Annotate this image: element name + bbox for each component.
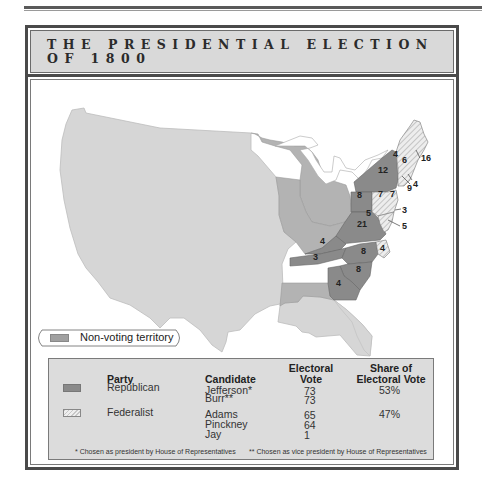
candidate-jay: Jay [205,429,221,440]
vote-virginia: 21 [357,219,367,229]
header-electoral-vote-line2: Vote [281,374,341,385]
party-republican: Republican [107,382,160,393]
vote-connecticut: 9 [407,183,412,193]
vote-pennsylvania-fed: 7 [378,189,383,199]
party-federalist: Federalist [107,407,153,418]
vote-pennsylvania-rep: 8 [357,190,362,200]
vote-kentucky: 4 [320,236,325,246]
vote-rhode-island: 4 [413,179,418,189]
share-federalist: 47% [379,409,400,420]
non-voting-label: Non-voting territory [80,331,174,343]
vote-north-carolina-rep: 8 [361,246,366,256]
vote-vermont: 4 [393,149,398,159]
share-republican: 53% [379,385,400,396]
vote-new-hampshire: 6 [402,155,407,165]
vote-north-carolina-fed: 4 [380,243,385,253]
vote-south-carolina: 8 [356,264,361,274]
results-table: Party Candidate Electoral Vote Share of … [48,358,434,460]
vote-new-york: 12 [378,165,388,175]
state-north-carolina [342,242,378,264]
vote-new-jersey: 7 [390,189,395,199]
votes-burr: 73 [304,395,316,406]
non-voting-swatch [50,334,69,342]
votes-jay: 1 [304,430,310,441]
vote-maryland-fed: 5 [402,221,407,231]
vote-georgia: 4 [336,278,341,288]
non-voting-legend: Non-voting territory [34,329,184,347]
vote-maryland-rep: 5 [366,208,371,218]
footnote-vice-president: ** Chosen as vice president by House of … [249,448,427,455]
vote-massachusetts: 16 [421,153,431,163]
republican-swatch [63,384,81,392]
vote-tennessee: 3 [313,252,318,262]
header-share: Share of Electoral Vote [351,363,431,385]
federalist-swatch [63,409,81,417]
vote-delaware: 3 [402,205,407,215]
candidate-burr: Burr** [205,393,233,404]
header-electoral-vote: Electoral Vote [281,363,341,385]
footnote-president: * Chosen as president by House of Repres… [75,448,236,455]
